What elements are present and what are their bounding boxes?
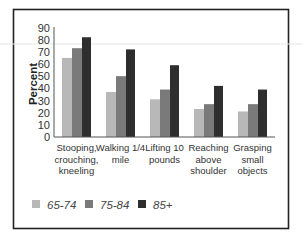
category-label: small <box>241 154 263 165</box>
bar-65-74-cat-3 <box>194 109 204 137</box>
bar-65-74-cat-0 <box>62 58 72 137</box>
y-tick-label: 20 <box>38 107 50 119</box>
category-label: Grasping <box>233 142 272 153</box>
bar-65-74-cat-1 <box>106 92 116 137</box>
chart: 0102030405060708090 Percent Stooping,cro… <box>0 0 302 242</box>
legend-swatch-75-84 <box>85 200 93 208</box>
legend-label: 85+ <box>153 199 173 211</box>
legend-label: 75-84 <box>100 199 129 211</box>
y-tick-label: 70 <box>38 46 50 58</box>
bar-75-84-cat-3 <box>204 104 214 137</box>
bar-75-84-cat-1 <box>116 76 126 137</box>
bar-65-74-cat-4 <box>238 111 248 137</box>
category-label: objects <box>237 165 267 176</box>
bar-75-84-cat-4 <box>248 104 258 137</box>
bar-85+-cat-2 <box>170 65 179 137</box>
bar-85+-cat-0 <box>82 37 91 137</box>
category-label: kneeling <box>59 165 94 176</box>
category-label: Walking 1/4 <box>96 142 145 153</box>
y-tick-label: 90 <box>38 22 50 34</box>
y-tick-label: 40 <box>38 82 50 94</box>
y-tick-labels: 0102030405060708090 <box>38 22 50 144</box>
y-tick-label: 30 <box>38 95 50 107</box>
category-label: Reaching <box>188 142 228 153</box>
category-label: Stooping, <box>56 142 96 153</box>
category-label: Lifting 10 <box>145 142 184 153</box>
category-label: mile <box>112 154 129 165</box>
category-label: crouching, <box>55 154 99 165</box>
y-tick-label: 60 <box>38 58 50 70</box>
y-tick-label: 10 <box>38 119 50 131</box>
bar-65-74-cat-2 <box>150 99 160 137</box>
bar-85+-cat-3 <box>214 86 223 137</box>
bar-85+-cat-1 <box>126 49 135 137</box>
category-label: shoulder <box>190 165 226 176</box>
legend-swatch-65-74 <box>32 200 40 208</box>
category-label: above <box>196 154 222 165</box>
bar-75-84-cat-0 <box>72 48 82 137</box>
legend-swatch-85+ <box>138 200 146 208</box>
y-tick-label: 0 <box>44 131 50 143</box>
category-label: pounds <box>149 154 180 165</box>
legend-label: 65-74 <box>47 199 76 211</box>
y-tick-label: 80 <box>38 34 50 46</box>
y-tick-label: 50 <box>38 70 50 82</box>
y-axis-label: Percent <box>27 63 39 105</box>
bar-75-84-cat-2 <box>160 90 170 137</box>
bar-85+-cat-4 <box>258 90 267 137</box>
